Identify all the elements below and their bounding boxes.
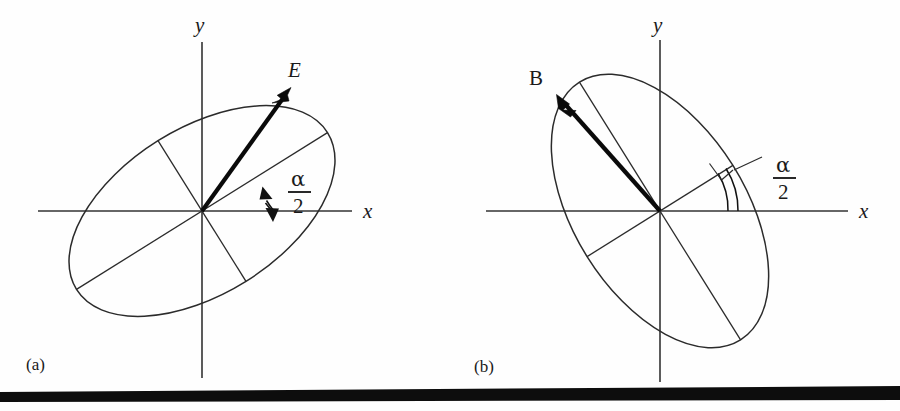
b-vector-arrowhead-b bbox=[557, 95, 577, 118]
e-vector-shaft-a bbox=[202, 96, 285, 211]
b-vector-label-b: B bbox=[529, 66, 543, 90]
angle-arc-arrowhead-down-a bbox=[266, 208, 280, 222]
panel-label-a: (a) bbox=[26, 355, 45, 374]
panel-a: α 2 y x E (a) bbox=[0, 0, 450, 411]
angle-denominator-b: 2 bbox=[778, 180, 789, 204]
angle-arc-arrowhead-up-a bbox=[260, 187, 273, 200]
angle-denominator-a: 2 bbox=[293, 194, 304, 218]
e-vector-arrowhead-a bbox=[272, 88, 291, 104]
figure-container: α 2 y x E (a) bbox=[0, 0, 900, 411]
x-axis-label-b: x bbox=[858, 199, 869, 223]
y-axis-label-a: y bbox=[193, 13, 205, 37]
x-axis-label-a: x bbox=[362, 199, 373, 223]
angle-numerator-b: α bbox=[776, 153, 790, 177]
panel-a-diagram: α 2 y x E (a) bbox=[0, 0, 450, 411]
e-vector-label-a: E bbox=[287, 58, 301, 82]
y-axis-label-b: y bbox=[651, 13, 663, 37]
panel-b: α 2 y x B (b) bbox=[450, 0, 900, 411]
angle-tick-b bbox=[710, 164, 722, 181]
angle-leader-line-b bbox=[734, 157, 762, 170]
panel-b-diagram: α 2 y x B (b) bbox=[450, 0, 900, 411]
b-vector-shaft-b bbox=[565, 104, 661, 212]
angle-numerator-a: α bbox=[291, 167, 305, 191]
panel-label-b: (b) bbox=[474, 357, 494, 376]
